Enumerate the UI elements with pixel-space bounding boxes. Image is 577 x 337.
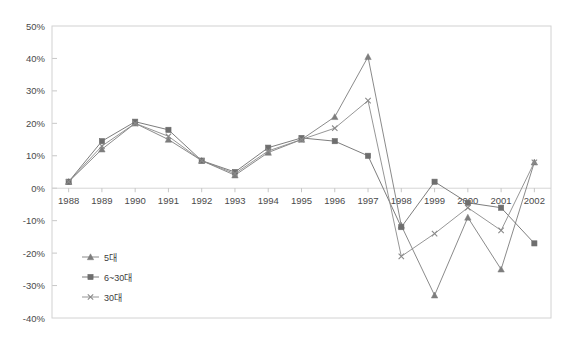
data-point bbox=[365, 153, 370, 158]
chart-container: 50%40%30%20%10%0%-10%-20%-30%-40% 198819… bbox=[0, 0, 577, 337]
x-tick-label: 1990 bbox=[125, 195, 146, 206]
chart-background bbox=[0, 0, 577, 337]
y-tick-label: -40% bbox=[23, 313, 46, 324]
x-tick-label: 1988 bbox=[58, 195, 79, 206]
x-tick-label: 1991 bbox=[158, 195, 179, 206]
x-tick-label: 1999 bbox=[424, 195, 445, 206]
y-tick-label: -10% bbox=[23, 215, 46, 226]
y-tick-label: -30% bbox=[23, 280, 46, 291]
data-point bbox=[499, 205, 504, 210]
data-point bbox=[465, 200, 470, 205]
x-tick-label: 1995 bbox=[291, 195, 312, 206]
data-point bbox=[99, 139, 104, 144]
x-tick-label: 2001 bbox=[491, 195, 512, 206]
y-tick-label: 30% bbox=[26, 85, 46, 96]
x-tick-label: 1993 bbox=[224, 195, 245, 206]
data-point bbox=[532, 241, 537, 246]
legend-label: 6~30대 bbox=[104, 273, 132, 283]
x-tick-label: 1989 bbox=[91, 195, 112, 206]
y-tick-label: -20% bbox=[23, 248, 46, 259]
y-tick-label: 10% bbox=[26, 150, 46, 161]
x-tick-label: 1997 bbox=[357, 195, 378, 206]
y-tick-label: 0% bbox=[31, 183, 45, 194]
data-point bbox=[332, 139, 337, 144]
x-tick-label: 1992 bbox=[191, 195, 212, 206]
y-tick-label: 40% bbox=[26, 53, 46, 64]
line-chart: 50%40%30%20%10%0%-10%-20%-30%-40% 198819… bbox=[0, 0, 577, 337]
x-tick-label: 1996 bbox=[324, 195, 345, 206]
data-point bbox=[166, 127, 171, 132]
x-tick-label: 2002 bbox=[524, 195, 545, 206]
y-tick-label: 20% bbox=[26, 118, 46, 129]
y-tick-label: 50% bbox=[26, 21, 46, 32]
x-tick-label: 1998 bbox=[391, 195, 412, 206]
x-tick-label: 1994 bbox=[258, 195, 279, 206]
legend-label: 30대 bbox=[104, 293, 122, 303]
data-point bbox=[399, 225, 404, 230]
legend-marker bbox=[88, 274, 93, 279]
data-point bbox=[432, 179, 437, 184]
legend-label: 5대 bbox=[104, 253, 117, 263]
